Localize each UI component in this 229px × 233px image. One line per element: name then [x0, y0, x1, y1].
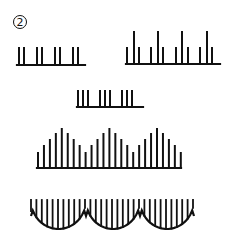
pattern-triple-ticks — [77, 91, 143, 107]
pattern-paired-ticks — [17, 48, 85, 65]
pattern-alternating-tall-short-ticks — [126, 32, 220, 64]
pattern-scalloped-hanging-lines — [31, 200, 194, 229]
pattern-triple-peak-ticks — [37, 129, 181, 168]
tick-pattern-diagram — [0, 0, 229, 233]
